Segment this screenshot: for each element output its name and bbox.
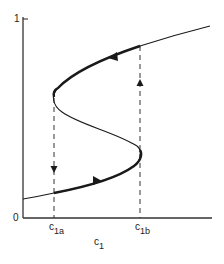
dashed-line-c1b	[137, 46, 144, 218]
y-axis-origin-label: 0	[13, 213, 19, 223]
axis-title-sub: 1	[99, 241, 104, 251]
lower-stable-branch	[54, 150, 141, 193]
tick-sub: 1b	[140, 226, 150, 236]
up-arrow-icon	[137, 79, 144, 86]
hysteresis-diagram	[0, 0, 224, 264]
x-tick-c1b-label: c1b	[135, 222, 150, 236]
y-axis-top-label: 1	[14, 14, 20, 24]
s-curve	[23, 26, 210, 199]
down-arrow-icon	[51, 166, 58, 173]
dashed-line-c1a	[51, 98, 58, 218]
upper-stable-branch	[54, 46, 140, 97]
x-axis-title: c1	[94, 237, 104, 251]
y-axis	[23, 17, 28, 218]
tick-sub: 1a	[54, 226, 64, 236]
x-tick-c1a-label: c1a	[49, 222, 64, 236]
